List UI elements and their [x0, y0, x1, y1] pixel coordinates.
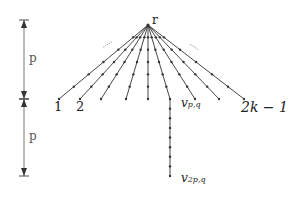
- branch-vertex-dot: [139, 48, 141, 50]
- branch-vertex-dot: [165, 85, 167, 87]
- branch-vertex-dot: [158, 61, 160, 63]
- branch-vertex-dot: [154, 48, 156, 50]
- branch-vertex-dot: [100, 98, 102, 100]
- ellipsis-left: .....: [100, 37, 114, 50]
- branch-vertex-dot: [108, 85, 110, 87]
- branch-vertex-dot: [150, 36, 152, 38]
- spider-tree-diagram: .......... r 1 2 2k − 1 vp,q v2p,q p p: [0, 0, 290, 197]
- vpq-main: v: [181, 96, 188, 110]
- extended-branch-vertex-dot: [169, 117, 171, 119]
- branch-vertex-dot: [132, 73, 134, 75]
- branch-vertex-dot: [227, 85, 229, 87]
- branch-vertex-dot: [131, 48, 133, 50]
- arrowhead-up-icon: [21, 99, 27, 107]
- branch-vertex-dot: [179, 48, 181, 50]
- branch-vertex-dot: [136, 61, 138, 63]
- branch-vertex-dot: [159, 36, 161, 38]
- branch-vertex-dot: [170, 48, 172, 50]
- extended-branch-vertex-dot: [169, 127, 171, 129]
- branch-vertex-dot: [206, 85, 208, 87]
- branch-vertex-dot: [73, 85, 75, 87]
- branch-vertex-dot: [87, 73, 89, 75]
- branch-vertex-dot: [147, 73, 149, 75]
- branch-vertex-dot: [161, 73, 163, 75]
- branch-vertex-dot: [147, 36, 149, 38]
- leaf-label-last: 2k − 1: [241, 100, 288, 114]
- leaf-label-2: 2: [76, 100, 84, 113]
- branch-vertex-dot: [113, 61, 115, 63]
- leaf-label-1: 1: [54, 100, 62, 113]
- branch-vertex-dot: [155, 36, 157, 38]
- branch-vertex-dot: [182, 61, 184, 63]
- vertex-label-vpq: vp,q: [181, 97, 201, 109]
- root-label: r: [152, 14, 158, 26]
- dimension-label-bottom: p: [29, 130, 37, 142]
- branch-vertex-dot: [101, 73, 103, 75]
- v2pq-main: v: [181, 171, 188, 185]
- branch-vertex-dot: [147, 48, 149, 50]
- branch-vertex-dot: [147, 61, 149, 63]
- v2pq-sub: 2p,q: [188, 175, 206, 184]
- branch-vertex-dot: [195, 61, 197, 63]
- branch-vertex-dot: [211, 73, 213, 75]
- vpq-sub: p,q: [188, 100, 201, 109]
- branch-vertex-dot: [163, 36, 165, 38]
- arrowhead-down-icon: [21, 91, 27, 99]
- branch-vertex-dot: [194, 73, 196, 75]
- branch-vertex-dot: [186, 85, 188, 87]
- branch-vertex-dot: [128, 85, 130, 87]
- branch-vertex-dot: [135, 36, 137, 38]
- arrowhead-up-icon: [21, 20, 27, 28]
- extended-branch-vertex-dot: [169, 165, 171, 167]
- dimension-label-top: p: [29, 52, 37, 64]
- branch-vertex-dot: [170, 61, 172, 63]
- branch-vertex-dot: [132, 36, 134, 38]
- extended-branch-vertex-dot: [169, 136, 171, 138]
- ellipsis-right: .....: [188, 39, 202, 52]
- arrowhead-down-icon: [21, 168, 27, 176]
- branch-vertex-dot: [139, 36, 141, 38]
- branch-vertex-dot: [102, 61, 104, 63]
- extended-branch-vertex-dot: [169, 156, 171, 158]
- vertex-label-v2pq: v2p,q: [181, 172, 206, 184]
- extended-branch-vertex-dot: [169, 107, 171, 109]
- branch-vertex-dot: [178, 73, 180, 75]
- branch-vertex-dot: [218, 98, 220, 100]
- branch-vertex-dot: [147, 85, 149, 87]
- root-vertex: [146, 23, 149, 26]
- branch-vertex-dot: [115, 73, 117, 75]
- branch-vertex-dot: [117, 48, 119, 50]
- extended-branch-vertex-dot: [169, 146, 171, 148]
- branch-vertex-dot: [123, 61, 125, 63]
- branch-vertex-dot: [162, 48, 164, 50]
- branch-vertex-dot: [143, 36, 145, 38]
- branch-vertex-dot: [124, 48, 126, 50]
- extended-branch-vertex-dot: [169, 175, 171, 177]
- branch-vertex-dot: [147, 98, 149, 100]
- branch-vertex-dot: [90, 85, 92, 87]
- branch-vertex-dot: [125, 98, 127, 100]
